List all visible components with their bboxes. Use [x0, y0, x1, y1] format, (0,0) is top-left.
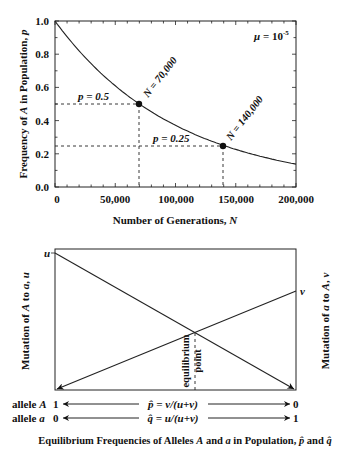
- allele-a-left-value: 0: [53, 412, 59, 424]
- bottom-chart-title: Equilibrium Frequencies of Alleles A and…: [38, 435, 331, 446]
- label-n-70000: N = 70,000: [140, 54, 179, 100]
- equilibrium-label-2: point: [192, 349, 203, 373]
- guide-lines: [55, 104, 223, 187]
- allele-A-right-value: 0: [293, 398, 299, 410]
- x-tick-150000: 150,000: [218, 193, 254, 205]
- y-tick-0.4: 0.4: [35, 115, 49, 127]
- x-tick-100000: 100,000: [158, 193, 194, 205]
- top-chart: 0.0 0.2 0.4 0.6 0.8 1.0 0 50,000 100,000…: [17, 15, 314, 226]
- top-y-tick-labels: 0.0 0.2 0.4 0.6 0.8 1.0: [35, 15, 49, 193]
- top-y-axis-label: Frequency of A in Population, p: [17, 29, 29, 178]
- y-tick-0: 0.0: [35, 181, 49, 193]
- allele-A-left-value: 1: [53, 398, 59, 410]
- point-n-70000: [136, 101, 142, 107]
- left-axis-label: Mutation of A to a, u: [19, 272, 31, 370]
- top-x-tick-labels: 0 50,000 100,000 150,000 200,000: [54, 193, 314, 205]
- y-tick-0.8: 0.8: [35, 48, 49, 60]
- q-hat-formula: q̂ = u/(u+v): [147, 412, 198, 425]
- x-tick-50000: 50,000: [100, 193, 131, 205]
- point-n-140000: [220, 143, 226, 149]
- y-tick-1.0: 1.0: [35, 15, 49, 27]
- label-p-0.5: p = 0.5: [77, 90, 110, 102]
- p-hat-formula: p̂ = v/(u+v): [147, 398, 198, 411]
- mu-annotation: μ = 10-5: [253, 29, 289, 42]
- y-tick-0.2: 0.2: [35, 148, 49, 160]
- x-tick-200000: 200,000: [278, 193, 314, 205]
- allele-A-row: allele A 1 p̂ = v/(u+v) 0: [12, 398, 299, 411]
- y-tick-0.6: 0.6: [35, 81, 49, 93]
- right-axis-label: Mutation of a to A, v: [319, 273, 331, 370]
- equilibrium-label-1: equilibrium: [180, 334, 191, 387]
- figure: 0.0 0.2 0.4 0.6 0.8 1.0 0 50,000 100,000…: [0, 0, 346, 450]
- x-tick-0: 0: [54, 193, 60, 205]
- v-line: [57, 291, 296, 389]
- allele-a-row: allele a 0 q̂ = u/(u+v) 1: [12, 412, 299, 425]
- allele-a-right-value: 1: [293, 412, 299, 424]
- label-n-140000: N = 140,000: [223, 93, 265, 143]
- u-marker: u: [44, 247, 50, 259]
- u-line: [55, 253, 294, 389]
- v-marker: v: [300, 285, 305, 297]
- allele-A-label: allele A: [12, 398, 47, 410]
- bottom-chart: equilibrium point u v Mutation of A to a…: [12, 247, 332, 446]
- bottom-plot-frame: [55, 249, 296, 390]
- top-x-axis-label: Number of Generations, N: [113, 214, 239, 226]
- allele-a-label: allele a: [12, 412, 45, 424]
- label-p-0.25: p = 0.25: [152, 132, 190, 144]
